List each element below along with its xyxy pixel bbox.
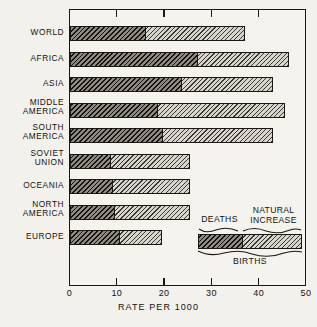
- bar-segment-deaths: [71, 180, 114, 193]
- bar-segment-deaths: [71, 206, 116, 219]
- table-row: [70, 154, 191, 169]
- legend-segment-natural-increase: [243, 235, 301, 248]
- tick-bottom-20: [163, 278, 164, 286]
- tick-top-40: [258, 9, 259, 17]
- bar-segment-natural-increase: [111, 155, 189, 168]
- category-label-line1: EUROPE: [26, 231, 64, 241]
- table-row: [70, 103, 285, 118]
- bar-segment-deaths: [71, 155, 111, 168]
- legend-label-births: BIRTHS: [196, 256, 304, 266]
- legend-label-deaths: DEATHS: [196, 214, 243, 225]
- tick-bottom-40: [258, 278, 259, 286]
- category-label-middle: MIDDLEAMERICA: [23, 98, 64, 117]
- axis-tick-label-40: 40: [253, 288, 264, 298]
- legend-label-natural-increase-line2: INCREASE: [250, 215, 296, 225]
- stacked-bar-chart: WORLDAFRICAASIAMIDDLEAMERICASOUTHAMERICA…: [0, 0, 317, 327]
- tick-top-10: [116, 9, 117, 17]
- category-label-oceania: OCEANIA: [23, 181, 64, 190]
- bar-segment-natural-increase: [182, 78, 272, 91]
- table-row: [70, 26, 245, 41]
- category-label-line1: AFRICA: [31, 53, 64, 63]
- category-label-line1: OCEANIA: [23, 180, 64, 190]
- table-row: [70, 52, 290, 67]
- category-label-line1: SOVIET: [31, 148, 64, 158]
- tick-bottom-30: [211, 278, 212, 286]
- bar-segment-natural-increase: [115, 206, 189, 219]
- category-label-asia: ASIA: [43, 79, 64, 88]
- tick-top-20: [163, 9, 164, 17]
- axis-tick-label-30: 30: [206, 288, 217, 298]
- bar-segment-deaths: [71, 78, 182, 91]
- category-label-line2: AMERICA: [23, 132, 64, 141]
- category-label-north: NORTHAMERICA: [23, 200, 64, 219]
- bar-segment-natural-increase: [158, 104, 284, 117]
- bar-segment-natural-increase: [163, 129, 272, 142]
- table-row: [70, 230, 162, 245]
- category-label-line1: ASIA: [43, 78, 64, 88]
- tick-top-30: [211, 9, 212, 17]
- bar-segment-deaths: [71, 27, 147, 40]
- category-label-south: SOUTHAMERICA: [23, 123, 64, 142]
- axis-tick-label-0: 0: [67, 288, 72, 298]
- category-label-line1: NORTH: [32, 199, 64, 209]
- category-label-line1: WORLD: [31, 27, 64, 37]
- category-label-world: WORLD: [31, 28, 64, 37]
- legend-segment-deaths: [199, 235, 243, 248]
- legend-sample-bar: [198, 234, 302, 249]
- tick-bottom-10: [116, 278, 117, 286]
- category-label-line1: MIDDLE: [30, 97, 64, 107]
- bar-segment-deaths: [71, 231, 121, 244]
- axis-tick-label-20: 20: [159, 288, 170, 298]
- table-row: [70, 179, 191, 194]
- category-label-line2: UNION: [31, 158, 64, 167]
- x-axis-title: RATE PER 1000: [0, 302, 317, 312]
- bar-segment-natural-increase: [120, 231, 161, 244]
- bar-segment-deaths: [71, 129, 163, 142]
- chart-legend: DEATHS NATURAL INCREASE BIRTHS: [196, 206, 304, 274]
- category-label-europe: EUROPE: [26, 232, 64, 241]
- category-label-line2: AMERICA: [23, 209, 64, 218]
- bar-segment-deaths: [71, 53, 199, 66]
- category-label-africa: AFRICA: [31, 54, 64, 63]
- category-label-line2: AMERICA: [23, 107, 64, 116]
- bar-segment-natural-increase: [198, 53, 288, 66]
- table-row: [70, 205, 191, 220]
- table-row: [70, 128, 273, 143]
- axis-tick-label-50: 50: [301, 288, 312, 298]
- legend-label-natural-increase: NATURAL INCREASE: [243, 206, 304, 225]
- bar-segment-deaths: [71, 104, 159, 117]
- axis-tick-label-10: 10: [111, 288, 122, 298]
- bar-segment-natural-increase: [146, 27, 243, 40]
- bar-segment-natural-increase: [113, 180, 189, 193]
- category-label-soviet: SOVIETUNION: [31, 149, 64, 168]
- table-row: [70, 77, 273, 92]
